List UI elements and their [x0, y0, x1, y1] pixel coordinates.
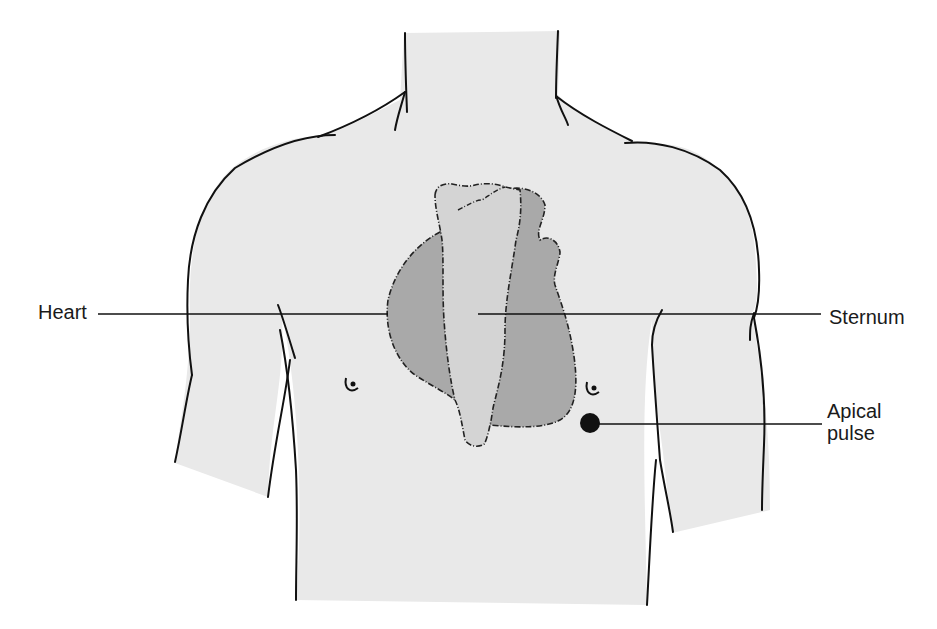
label-apical-line2: pulse [827, 422, 881, 444]
label-apical-pulse: Apical pulse [827, 400, 881, 444]
label-apical-line1: Apical [827, 400, 881, 422]
apical-pulse-marker [580, 413, 600, 433]
chest-illustration [0, 0, 937, 629]
label-sternum: Sternum [829, 306, 905, 328]
label-heart: Heart [38, 301, 87, 323]
